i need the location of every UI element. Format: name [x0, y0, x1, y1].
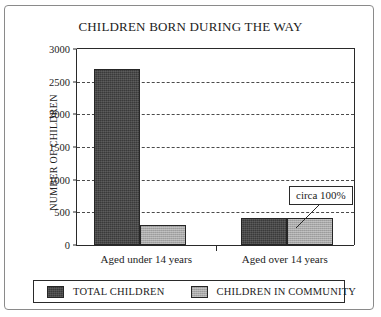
chart-title: CHILDREN BORN DURING THE WAY: [0, 19, 381, 35]
y-tick-label: 1500: [49, 142, 70, 153]
y-tick-label: 2500: [49, 76, 70, 87]
y-tick-mark: [73, 81, 77, 82]
y-tick-mark: [73, 114, 77, 115]
annotation-circa-100: circa 100%: [289, 186, 353, 205]
y-tick-mark: [73, 147, 77, 148]
y-tick-mark: [73, 245, 77, 246]
legend-label-children-in-community: CHILDREN IN COMMUNITY: [217, 286, 357, 297]
legend-swatch-icon-children-in-community: [191, 286, 208, 298]
y-tick-label: 2000: [49, 109, 70, 120]
bar: [140, 225, 186, 245]
x-axis-category-label: Aged under 14 years: [101, 253, 192, 265]
y-tick-mark: [73, 212, 77, 213]
y-tick-label: 0: [65, 240, 70, 251]
legend-entry-total-children: TOTAL CHILDREN: [47, 286, 165, 298]
bar: [287, 218, 333, 245]
plot-area: 050010001500200025003000 Aged under 14 y…: [76, 49, 354, 246]
legend-label-total-children: TOTAL CHILDREN: [73, 286, 165, 297]
y-tick-mark: [73, 49, 77, 50]
bar: [94, 69, 140, 245]
bar: [241, 218, 287, 245]
y-tick-label: 1000: [49, 174, 70, 185]
legend-swatch-icon-total-children: [47, 286, 64, 298]
legend: TOTAL CHILDREN CHILDREN IN COMMUNITY: [33, 280, 345, 303]
y-tick-label: 3000: [49, 44, 70, 55]
y-tick-label: 500: [54, 207, 70, 218]
plot-top-border: [77, 48, 354, 49]
plot-right-border: [354, 48, 355, 245]
x-axis-separator-tick: [216, 245, 217, 251]
y-tick-mark: [73, 179, 77, 180]
x-axis-category-label: Aged over 14 years: [242, 253, 328, 265]
legend-entry-children-in-community: CHILDREN IN COMMUNITY: [191, 286, 357, 298]
